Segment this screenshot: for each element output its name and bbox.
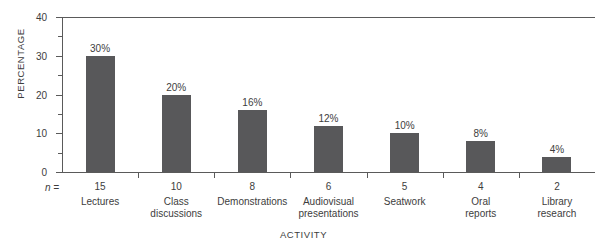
bar-value-label: 8% — [474, 128, 488, 139]
y-tick-major: 10 — [56, 133, 63, 134]
x-tick — [367, 172, 368, 178]
x-tick — [443, 172, 444, 178]
bar: 30% — [86, 56, 115, 172]
y-tick-major: 20 — [56, 95, 63, 96]
x-tick — [138, 172, 139, 178]
x-category-name-line: Oral — [443, 196, 519, 209]
x-category-n-value: 6 — [290, 181, 366, 194]
x-category-n-value: 2 — [519, 181, 595, 194]
bar-value-label: 30% — [90, 43, 110, 54]
x-category-name-line: Demonstrations — [214, 196, 290, 209]
x-category-n-value: 5 — [367, 181, 443, 194]
bar: 12% — [314, 126, 343, 173]
y-tick-label: 0 — [41, 167, 47, 178]
y-tick-minor — [58, 75, 63, 76]
x-tick — [214, 172, 215, 178]
x-category-name-line: presentations — [290, 208, 366, 221]
x-category-label: 8Demonstrations — [214, 181, 290, 208]
bar-value-label: 12% — [318, 113, 338, 124]
bar: 4% — [542, 157, 571, 173]
plot-area: 010203040 30%20%16%12%10%8%4% — [62, 17, 595, 172]
bar: 16% — [238, 110, 267, 172]
x-category-label: 5Seatwork — [367, 181, 443, 208]
y-tick-minor — [58, 114, 63, 115]
x-category-name-line: research — [519, 208, 595, 221]
y-tick-major: 0 — [56, 172, 63, 173]
y-tick-label: 40 — [36, 12, 47, 23]
bar-value-label: 20% — [166, 82, 186, 93]
x-category-name-line: Library — [519, 196, 595, 209]
y-tick-minor — [58, 36, 63, 37]
x-category-label: 2Libraryresearch — [519, 181, 595, 221]
x-axis-title: ACTIVITY — [0, 229, 607, 240]
x-tick — [290, 172, 291, 178]
bar: 8% — [466, 141, 495, 172]
y-tick-label: 30 — [36, 50, 47, 61]
x-category-name-line: reports — [443, 208, 519, 221]
x-category-label: 10Classdiscussions — [138, 181, 214, 221]
x-category-name-line: Class — [138, 196, 214, 209]
x-category-n-value: 8 — [214, 181, 290, 194]
bar-value-label: 4% — [550, 144, 564, 155]
x-category-n-value: 15 — [62, 181, 138, 194]
x-tick — [519, 172, 520, 178]
bar-value-label: 16% — [242, 97, 262, 108]
y-tick-major: 30 — [56, 56, 63, 57]
y-tick-label: 10 — [36, 128, 47, 139]
x-category-name-line: discussions — [138, 208, 214, 221]
bar-chart: PERCENTAGE 010203040 30%20%16%12%10%8%4%… — [0, 0, 607, 251]
y-tick-minor — [58, 153, 63, 154]
y-tick-label: 20 — [36, 89, 47, 100]
x-category-label: 6Audiovisualpresentations — [290, 181, 366, 221]
y-axis-title: PERCENTAGE — [15, 4, 26, 124]
plot-top-border — [62, 17, 595, 18]
bar: 10% — [390, 133, 419, 172]
x-category-label: 4Oralreports — [443, 181, 519, 221]
x-category-name-line: Lectures — [62, 196, 138, 209]
x-category-name-line: Audiovisual — [290, 196, 366, 209]
bar-value-label: 10% — [395, 120, 415, 131]
bar: 20% — [162, 95, 191, 173]
x-category-label: 15Lectures — [62, 181, 138, 208]
x-category-n-value: 4 — [443, 181, 519, 194]
n-prefix-label: n = — [45, 182, 59, 193]
x-axis-line — [62, 172, 595, 173]
x-category-name-line: Seatwork — [367, 196, 443, 209]
x-category-n-value: 10 — [138, 181, 214, 194]
y-tick-major: 40 — [56, 17, 63, 18]
